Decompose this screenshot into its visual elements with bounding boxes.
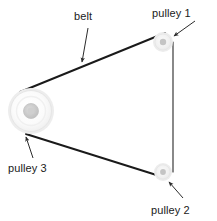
- pulley-2-label: pulley 2: [151, 204, 190, 216]
- pulley-3: [8, 88, 54, 134]
- pulley-3-label: pulley 3: [8, 162, 47, 174]
- pulley-1: [153, 32, 173, 52]
- pulley-1-hub: [160, 39, 166, 45]
- pulley-belt-diagram: belt pulley 1 pulley 2 pulley 3: [0, 0, 217, 221]
- belt-label: belt: [74, 10, 92, 22]
- pulley-3-axle: [28, 108, 35, 115]
- pulley-1-label: pulley 1: [152, 7, 191, 19]
- pulley-2-hub: [160, 169, 166, 175]
- diagram-canvas: belt pulley 1 pulley 2 pulley 3: [0, 0, 217, 221]
- pulley-2: [154, 163, 172, 181]
